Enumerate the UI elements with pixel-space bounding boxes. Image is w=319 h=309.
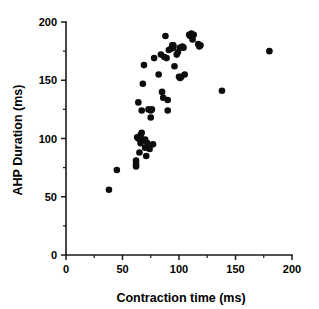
data-point [219,87,226,94]
data-point [140,80,147,87]
data-point [171,63,178,70]
data-point [138,129,145,136]
x-tick-label: 0 [63,263,69,275]
data-point [162,33,169,40]
data-point [150,141,157,148]
y-axis-title: AHP Duration (ms) [11,85,25,196]
x-axis-title: Contraction time (ms) [116,291,245,305]
data-point [147,114,154,121]
data-point [151,55,158,62]
tick-labels-group: 050100150200050100150200 [39,16,302,275]
y-tick-label: 150 [39,74,57,86]
data-point [106,186,113,193]
x-tick-label: 50 [116,263,128,275]
data-points-group [106,30,273,193]
data-point [141,62,148,69]
data-point [181,71,188,78]
x-tick-label: 200 [283,263,301,275]
data-point [180,44,187,51]
data-point [164,107,171,114]
data-point [133,157,140,164]
data-point [163,55,170,62]
data-point [164,97,171,104]
data-point [143,153,150,160]
data-point [197,42,204,49]
data-point [155,71,162,78]
x-tick-label: 150 [226,263,244,275]
data-point [144,140,151,147]
data-point [133,163,140,170]
y-tick-label: 0 [51,249,57,261]
data-point [135,99,142,106]
data-point [190,32,197,39]
y-tick-label: 50 [45,191,57,203]
scatter-plot-figure: 050100150200050100150200 Contraction tim… [0,0,319,309]
data-point [149,106,156,113]
data-point [138,107,145,114]
data-point [136,149,143,156]
data-point [266,48,273,55]
y-tick-label: 100 [39,133,57,145]
data-point [159,89,166,96]
chart-canvas: 050100150200050100150200 Contraction tim… [0,0,319,309]
y-tick-label: 200 [39,16,57,28]
x-tick-label: 100 [170,263,188,275]
data-point [114,167,121,174]
